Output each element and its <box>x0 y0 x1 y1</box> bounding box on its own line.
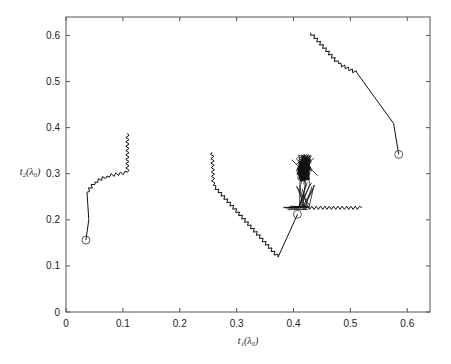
x-tick-label: 0.3 <box>230 318 244 329</box>
trajectory-4-line <box>311 33 399 155</box>
y-tick-label: 0.6 <box>46 30 60 41</box>
y-tick-label: 0.4 <box>46 122 60 133</box>
y-tick-label: 0.5 <box>46 76 60 87</box>
x-tick-label: 0 <box>63 318 69 329</box>
y-tick-label: 0.3 <box>46 168 60 179</box>
x-tick-label: 0.1 <box>116 318 130 329</box>
start-circle-marker <box>293 210 301 218</box>
trajectory-1-line <box>86 133 129 240</box>
plot-frame <box>66 17 430 312</box>
axes: 00.10.20.30.40.50.600.10.20.30.40.50.6 <box>46 17 430 329</box>
x-tick-label: 0.5 <box>343 318 357 329</box>
x-tick-label: 0.2 <box>173 318 187 329</box>
trajectory-chart: 00.10.20.30.40.50.600.10.20.30.40.50.6 t… <box>0 0 451 364</box>
series-group <box>82 33 403 257</box>
x-tick-label: 0.4 <box>287 318 301 329</box>
y-axis-label: t₂(λ₀) <box>20 166 41 178</box>
trajectory-2-line <box>211 152 298 257</box>
y-tick-label: 0 <box>54 307 60 318</box>
y-tick-label: 0.1 <box>46 260 60 271</box>
x-axis-label: t₁(λ₀) <box>238 335 259 347</box>
y-tick-label: 0.2 <box>46 214 60 225</box>
trajectory-3-oscillating-line <box>303 206 362 209</box>
x-tick-label: 0.6 <box>400 318 414 329</box>
